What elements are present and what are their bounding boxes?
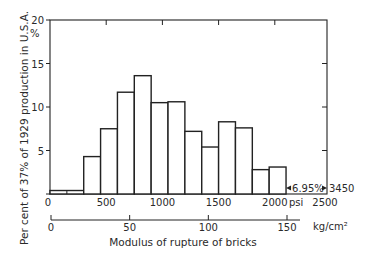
- histogram-bar: [84, 157, 101, 194]
- svg-text:0: 0: [48, 222, 54, 233]
- svg-text:2500: 2500: [312, 197, 337, 208]
- histogram-chart: 5101520 05001000150020002500 050100150 6…: [0, 0, 367, 260]
- svg-text:500: 500: [97, 197, 116, 208]
- svg-text:1000: 1000: [150, 197, 175, 208]
- svg-text:50: 50: [123, 222, 136, 233]
- histogram-bar: [168, 102, 185, 194]
- y-axis-title: Per cent of 37% of 1929 production in U.…: [18, 11, 30, 245]
- svg-text:15: 15: [31, 59, 44, 70]
- svg-text:20: 20: [31, 15, 44, 26]
- histogram-bar: [134, 76, 151, 194]
- svg-text:0: 0: [45, 197, 51, 208]
- y-unit-label: %: [30, 28, 40, 39]
- svg-text:3450: 3450: [329, 183, 354, 194]
- svg-text:100: 100: [199, 222, 218, 233]
- histogram-bar: [235, 128, 252, 194]
- svg-text:6.95%: 6.95%: [292, 183, 324, 194]
- annotation-6-95-percent: 6.95%3450: [286, 183, 354, 194]
- histogram-bar: [219, 122, 236, 194]
- y-axis: 5101520: [31, 15, 50, 194]
- histogram-bar: [101, 129, 118, 194]
- histogram-bar: [117, 92, 134, 194]
- x-unit-kg: kg/cm²: [313, 221, 348, 232]
- histogram-bar: [151, 103, 168, 194]
- histogram-bars: [50, 76, 286, 194]
- svg-text:5: 5: [38, 146, 44, 157]
- histogram-bar: [185, 131, 202, 194]
- svg-text:1500: 1500: [206, 197, 231, 208]
- x-axis-kg: 050100150: [48, 215, 300, 233]
- svg-text:10: 10: [31, 102, 44, 113]
- svg-text:150: 150: [277, 222, 296, 233]
- histogram-bar: [252, 170, 269, 194]
- histogram-bar: [202, 147, 219, 194]
- histogram-bar: [269, 167, 286, 194]
- x-unit-psi: psi: [289, 197, 303, 208]
- x-axis-title: Modulus of rupture of bricks: [109, 236, 257, 248]
- svg-text:2000: 2000: [262, 197, 287, 208]
